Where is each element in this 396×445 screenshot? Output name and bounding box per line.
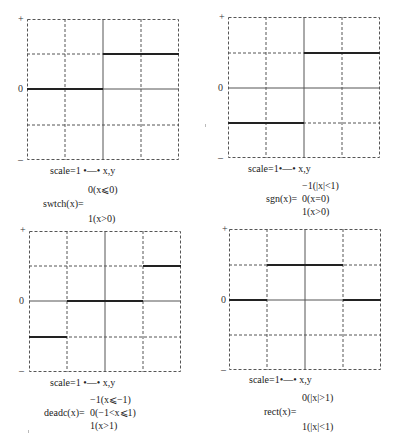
scan-artifact [205,124,206,127]
plot-area-deadc [29,231,181,372]
y-tick-plus: + [219,12,225,22]
case-1: 0(−1<x⩽1) [90,407,136,418]
plot-svg-sgn [228,17,380,158]
plot-svg-rect [229,229,381,370]
y-tick-zero: 0 [19,296,24,306]
case-0: −1(|x|<1) [302,180,339,191]
y-tick-zero: 0 [221,295,226,305]
y-tick-plus: + [20,225,26,235]
y-tick-minus: – [221,365,226,375]
y-tick-minus: – [18,155,23,165]
scale-label: scale=1 •—• x,y [50,377,115,388]
scale-label: scale=1 •—• x,y [50,165,115,176]
function-name: swtch(x)= [43,198,84,209]
y-tick-minus: – [218,153,223,163]
function-name: rect(x)= [264,406,296,417]
plot-area-sgn [228,17,380,158]
y-tick-zero: 0 [18,84,23,94]
case-0: 0(|x|>1) [302,392,333,403]
case-2: 1(x>1) [90,420,117,431]
plot-svg-deadc [29,231,181,372]
case-1: 1(x>0) [88,213,115,224]
case-1: 0(x=0) [302,193,329,204]
case-0: 0(x⩽0) [88,184,118,195]
y-tick-plus: + [18,14,24,24]
case-0: −1(x⩽−1) [90,394,131,405]
function-name: deadc(x)= [44,407,85,418]
plot-area-rect [229,229,381,370]
scan-artifact [28,430,29,433]
y-tick-zero: 0 [218,83,223,93]
plot-area-swtch [27,19,179,160]
y-tick-plus: + [222,224,228,234]
scale-label: scale=1•—• x,y [249,374,312,385]
function-name: sgn(x)= [266,193,297,204]
case-1: 1(|x|<1) [302,421,333,432]
y-tick-minus: – [19,366,24,376]
scale-label: scale=1•—• x,y [248,163,311,174]
case-2: 1(x>0) [302,206,329,217]
plot-svg-swtch [27,19,179,160]
